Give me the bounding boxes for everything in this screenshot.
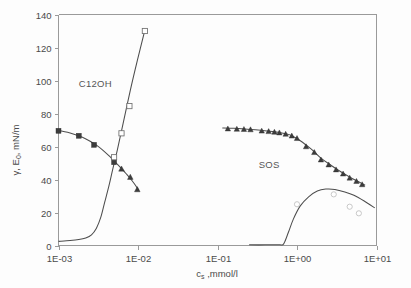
data-marker-filled-square	[76, 133, 81, 138]
data-marker-filled-triangle	[135, 187, 141, 192]
data-marker-open-circle	[331, 192, 336, 197]
fit-curve	[59, 130, 139, 190]
data-marker-open-square	[142, 28, 147, 33]
data-marker-open-circle	[294, 202, 299, 207]
x-tick-label: 1E+00	[284, 253, 312, 264]
y-tick-label: 80	[41, 109, 52, 120]
y-tick-label: 0	[46, 241, 51, 252]
x-axis-title-group: cs ,mmol/l	[196, 268, 238, 280]
y-axis-ticks: 020406080100120140	[36, 10, 59, 252]
data-marker-filled-square	[92, 142, 97, 147]
data-marker-open-circle	[356, 211, 361, 216]
surface-tension-elasticity-plot: 020406080100120140 1E-031E-021E-011E+001…	[0, 0, 411, 288]
data-marker-filled-triangle	[289, 133, 294, 138]
y-tick-label: 140	[36, 10, 52, 21]
x-tick-label: 1E+01	[364, 253, 392, 264]
x-axis-title: cs ,mmol/l	[196, 268, 238, 280]
data-markers	[56, 28, 365, 216]
x-tick-label: 1E-01	[206, 253, 231, 264]
data-marker-open-circle	[347, 204, 352, 209]
y-tick-label: 60	[41, 142, 52, 153]
y-tick-label: 20	[41, 208, 52, 219]
series-annotation-label: C12OH	[79, 78, 112, 89]
fitted-curves	[59, 30, 375, 245]
chart-figure: 020406080100120140 1E-031E-021E-011E+001…	[0, 0, 411, 288]
y-tick-label: 40	[41, 175, 52, 186]
plot-frame	[59, 15, 377, 246]
fit-curve	[249, 189, 375, 245]
data-marker-filled-square	[56, 128, 61, 133]
x-axis-ticks: 1E-031E-021E-011E+001E+01	[47, 246, 392, 264]
data-marker-filled-square	[112, 160, 117, 165]
data-marker-open-square	[111, 155, 116, 160]
fit-curve	[59, 30, 145, 241]
y-axis-title: γ, E0, mN/m	[10, 124, 22, 175]
x-tick-label: 1E-03	[47, 253, 72, 264]
series-annotation-label: SOS	[259, 159, 280, 170]
data-marker-open-square	[127, 103, 132, 108]
x-tick-label: 1E-02	[126, 253, 151, 264]
data-marker-open-square	[119, 131, 124, 136]
y-tick-label: 100	[36, 76, 52, 87]
y-tick-label: 120	[36, 43, 52, 54]
y-axis-title-group: γ, E0, mN/m	[10, 124, 22, 175]
